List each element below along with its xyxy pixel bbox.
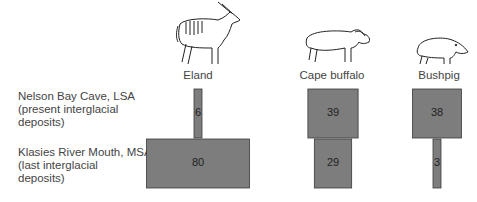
bar-value-label: 6 <box>195 106 201 118</box>
bar-value-label: 80 <box>192 156 204 168</box>
proportional-bar-chart: 6393880293 <box>0 0 477 202</box>
bar-value-label: 39 <box>327 106 339 118</box>
bar-value-label: 3 <box>434 156 440 168</box>
bar-value-label: 29 <box>327 156 339 168</box>
bar-value-label: 38 <box>431 106 443 118</box>
